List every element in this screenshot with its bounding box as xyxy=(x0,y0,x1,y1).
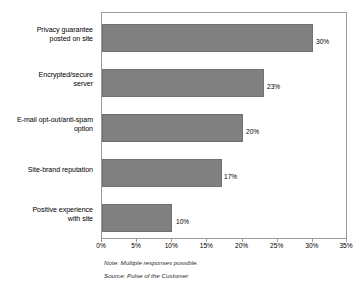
x-axis-labels: 0% 5% 10% 15% 20% 25% 30% 35% xyxy=(101,241,347,253)
category-label-line: Site-brand reputation xyxy=(0,166,93,175)
note-text: Note: Multiple responses possible. xyxy=(104,258,354,269)
category-label-line: Encrypted/secure xyxy=(0,71,93,80)
x-tick-label-35: 35% xyxy=(339,241,352,250)
category-axis-labels: Privacy guarantee posted on site Encrypt… xyxy=(0,12,97,239)
plot-area: 30% 23% 20% 17% 10% xyxy=(101,12,347,239)
category-label-email-opt-out: E-mail opt-out/anti-spam option xyxy=(0,116,93,134)
bar-privacy-guarantee xyxy=(102,24,313,52)
category-label-line: E-mail opt-out/anti-spam xyxy=(0,116,93,125)
bar-value-privacy-guarantee: 30% xyxy=(316,38,329,46)
category-label-encrypted-secure-server: Encrypted/secure server xyxy=(0,71,93,89)
category-label-line: Privacy guarantee xyxy=(0,26,93,35)
x-tick-label-20: 20% xyxy=(235,241,248,250)
category-label-line: server xyxy=(0,80,93,89)
plot-inner: 30% 23% 20% 17% 10% xyxy=(102,13,346,238)
bar-value-positive-experience: 10% xyxy=(176,218,189,226)
category-label-line: with site xyxy=(0,215,93,224)
x-tick-label-10: 10% xyxy=(165,241,178,250)
x-tick-label-25: 25% xyxy=(270,241,283,250)
category-label-site-brand-reputation: Site-brand reputation xyxy=(0,166,93,175)
bar-site-brand-reputation xyxy=(102,159,222,187)
bar-encrypted-secure-server xyxy=(102,69,264,97)
bar-email-opt-out xyxy=(102,114,243,142)
x-tick-label-5: 5% xyxy=(131,241,141,250)
bar-chart-figure: Privacy guarantee posted on site Encrypt… xyxy=(0,0,361,288)
bar-positive-experience xyxy=(102,204,172,232)
category-label-line: posted on site xyxy=(0,35,93,44)
category-label-line: option xyxy=(0,125,93,134)
source-text: Source: Pulse of the Customer xyxy=(104,271,354,282)
x-tick-label-15: 15% xyxy=(200,241,213,250)
category-label-privacy-guarantee: Privacy guarantee posted on site xyxy=(0,26,93,44)
bar-value-encrypted-secure-server: 23% xyxy=(267,83,280,91)
chart-footnotes: Note: Multiple responses possible. Sourc… xyxy=(104,258,354,281)
category-label-positive-experience: Positive experience with site xyxy=(0,206,93,224)
bar-value-email-opt-out: 20% xyxy=(246,128,259,136)
category-label-line: Positive experience xyxy=(0,206,93,215)
x-tick-label-30: 30% xyxy=(305,241,318,250)
x-tick-label-0: 0% xyxy=(96,241,106,250)
bar-value-site-brand-reputation: 17% xyxy=(224,173,237,181)
